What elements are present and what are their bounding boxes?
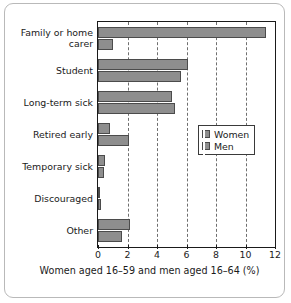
figure-frame: Family or homecarerStudentLong-term sick… [4, 3, 285, 298]
x-tick-label-12: 12 [269, 249, 281, 260]
category-label-line: Family or home [7, 27, 93, 38]
x-tick-label-4: 4 [154, 249, 160, 260]
category-label-3: Long-term sick [7, 97, 93, 108]
bar-women-6 [98, 187, 100, 198]
category-label-2: Student [7, 65, 93, 76]
bar-group [98, 155, 275, 178]
category-label-line: Temporary sick [7, 161, 93, 172]
bar-men-2 [98, 71, 181, 82]
legend-swatch-icon [202, 130, 210, 138]
bar-group [98, 27, 275, 50]
legend-swatch-inner [203, 142, 205, 163]
bar-women-3 [98, 91, 172, 102]
x-tick-label-6: 6 [184, 249, 190, 260]
legend-item-women: Women [202, 128, 249, 140]
category-label-4: Retired early [7, 129, 93, 140]
category-label-6: Discouraged [7, 193, 93, 204]
category-label-line: Retired early [7, 129, 93, 140]
bar-women-5 [98, 155, 105, 166]
bar-men-1 [98, 39, 113, 50]
bar-women-4 [98, 123, 110, 134]
category-label-line: Long-term sick [7, 97, 93, 108]
bar-men-7 [98, 231, 122, 242]
legend-swatch-icon [202, 142, 210, 150]
bar-men-3 [98, 103, 175, 114]
category-label-line: carer [7, 38, 93, 49]
bar-women-2 [98, 59, 188, 70]
bar-women-7 [98, 219, 130, 230]
x-tick-label-0: 0 [95, 249, 101, 260]
legend-item-men: Men [202, 140, 249, 152]
x-tick-label-2: 2 [125, 249, 131, 260]
bar-men-4 [98, 135, 129, 146]
category-axis-labels: Family or homecarerStudentLong-term sick… [5, 21, 93, 248]
category-label-line: Discouraged [7, 193, 93, 204]
bar-group [98, 59, 275, 82]
bar-group [98, 187, 275, 210]
legend-label: Men [214, 141, 234, 152]
bar-group [98, 91, 275, 114]
category-label-line: Other [7, 225, 93, 236]
bar-group [98, 219, 275, 242]
category-label-5: Temporary sick [7, 161, 93, 172]
bar-men-6 [98, 199, 101, 210]
category-label-line: Student [7, 65, 93, 76]
x-axis-title: Women aged 16–59 and men aged 16–64 (%) [9, 265, 290, 276]
x-tick-label-8: 8 [213, 249, 219, 260]
x-tick-label-10: 10 [240, 249, 252, 260]
chart-legend: WomenMen [198, 125, 255, 155]
category-label-7: Other [7, 225, 93, 236]
legend-label: Women [214, 129, 249, 140]
x-axis-ticks: 024681012 [97, 249, 276, 263]
bar-men-5 [98, 167, 104, 178]
bar-women-1 [98, 27, 266, 38]
category-label-1: Family or homecarer [7, 27, 93, 49]
